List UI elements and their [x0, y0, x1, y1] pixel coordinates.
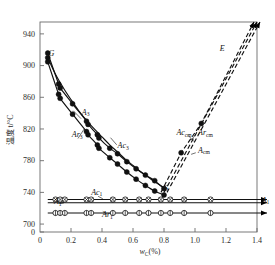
- curve-Arcm: [167, 22, 260, 192]
- annotation-G: G: [49, 49, 55, 58]
- data-point-filled: [115, 151, 120, 156]
- data-point-filled: [162, 192, 167, 197]
- y-axis-ticks: 0700740780820860900940: [23, 30, 44, 237]
- x-tick-label: 1.0: [190, 236, 200, 245]
- data-point-filled: [58, 85, 63, 90]
- data-point-filled: [107, 146, 112, 151]
- annotation-Ac1: Ac1: [90, 188, 102, 198]
- data-point-filled: [143, 183, 148, 188]
- data-point-filled: [115, 162, 120, 167]
- curve-Acm: [164, 22, 257, 192]
- data-point-filled: [124, 169, 129, 174]
- data-point-filled: [199, 121, 204, 126]
- y-tick-label: 0: [31, 228, 35, 237]
- data-point-filled: [58, 96, 63, 101]
- data-point-filled: [134, 166, 139, 171]
- data-point-filled: [143, 173, 148, 178]
- x-axis-ticks: 00.20.40.60.81.01.21.4: [38, 228, 262, 245]
- x-tick-label: 1.4: [252, 236, 262, 245]
- svg-text:wC(%): wC(%): [139, 247, 160, 257]
- y-tick-label: 820: [23, 125, 35, 134]
- x-tick-label: 0.6: [128, 236, 138, 245]
- svg-text:温度 t/°C: 温度 t/°C: [5, 115, 15, 146]
- data-point-filled: [152, 189, 157, 194]
- annotation-Ac3: Ac3: [117, 141, 129, 151]
- data-point-filled: [96, 135, 101, 140]
- iron-carbon-phase-diagram: 0700740780820860900940 00.20.40.60.81.01…: [0, 0, 275, 265]
- y-tick-label: 860: [23, 93, 35, 102]
- annotation-S: S: [164, 184, 168, 193]
- y-tick-label: 900: [23, 61, 35, 70]
- chart-container: 0700740780820860900940 00.20.40.60.81.01…: [0, 0, 275, 265]
- data-point-filled: [86, 132, 91, 137]
- x-axis-title: wC(%): [139, 247, 160, 257]
- curve-Accm: [161, 22, 254, 192]
- data-curves: [48, 22, 267, 213]
- annotation-E: E: [219, 44, 225, 53]
- annotation-A3: A3: [81, 108, 90, 118]
- annotation-A1r: A1: [261, 196, 270, 206]
- y-tick-label: 940: [23, 30, 35, 39]
- annotation-Accm: Accm: [175, 128, 192, 138]
- y-tick-label: 700: [23, 220, 35, 229]
- x-tick-label: 1.2: [221, 236, 231, 245]
- data-point-filled: [96, 146, 101, 151]
- y-axis-title: 温度 t/°C: [5, 115, 15, 146]
- data-point-filled: [70, 101, 75, 106]
- x-tick-label: 0: [38, 236, 42, 245]
- x-tick-label: 0.4: [97, 236, 107, 245]
- x-tick-label: 0.8: [159, 236, 169, 245]
- curve-A3: [48, 58, 164, 188]
- data-point-filled: [70, 112, 75, 117]
- y-tick-label: 780: [23, 156, 35, 165]
- data-point-filled: [179, 150, 184, 155]
- x-tick-label: 0.2: [66, 236, 76, 245]
- data-point-filled: [107, 155, 112, 160]
- data-point-filled: [152, 178, 157, 183]
- curve-Ar3: [48, 53, 164, 189]
- annotation-Ar3: Ar3: [71, 130, 83, 140]
- y-tick-label: 740: [23, 188, 35, 197]
- annotation-Acm: Acm: [197, 146, 210, 156]
- data-point-filled: [124, 159, 129, 164]
- annotation-Arcm: Arcm: [197, 128, 213, 138]
- data-point-filled: [134, 177, 139, 182]
- data-point-filled: [86, 122, 91, 127]
